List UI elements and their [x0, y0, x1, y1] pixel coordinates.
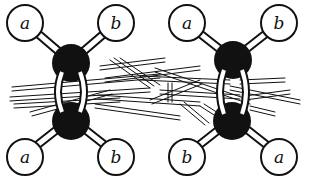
- svg-text:b: b: [274, 13, 285, 33]
- substituent-top-right: b: [98, 5, 134, 41]
- svg-text:a: a: [20, 147, 30, 167]
- substituent-bottom-left: b: [169, 139, 205, 175]
- svg-text:a: a: [274, 147, 284, 167]
- svg-text:b: b: [111, 13, 122, 33]
- substituent-bottom-left: a: [7, 139, 43, 175]
- isomer-diagram: a b a b: [0, 0, 317, 182]
- substituent-bottom-right: b: [98, 139, 134, 175]
- substituent-bottom-right: a: [261, 139, 297, 175]
- substituent-top-left: a: [169, 5, 205, 41]
- svg-text:b: b: [182, 147, 193, 167]
- svg-text:b: b: [111, 147, 122, 167]
- substituent-top-right: b: [261, 5, 297, 41]
- svg-text:a: a: [182, 13, 192, 33]
- substituent-top-left: a: [7, 5, 43, 41]
- svg-text:a: a: [20, 13, 30, 33]
